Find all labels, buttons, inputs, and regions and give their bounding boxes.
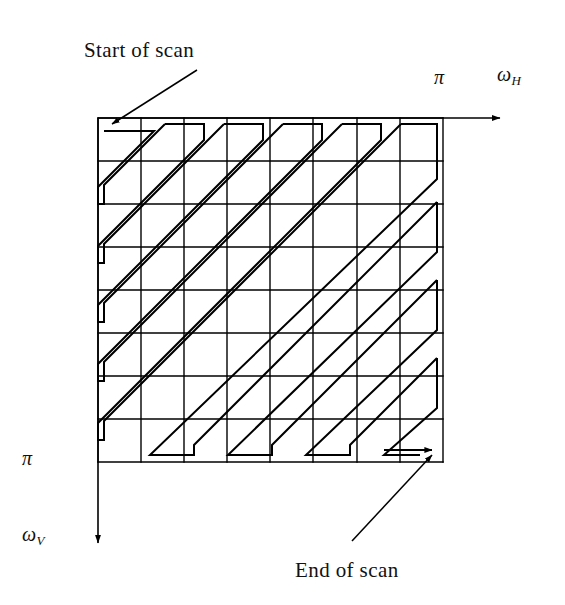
omega-h-subscript: H <box>512 73 522 88</box>
scan-segment <box>98 124 342 381</box>
start-of-scan-leader-arrow <box>112 70 197 124</box>
omega-v-symbol: ω <box>22 523 37 545</box>
scan-segment <box>98 124 401 440</box>
omega-h-symbol: ω <box>497 63 512 85</box>
scan-segment <box>306 280 437 455</box>
axes <box>98 118 500 543</box>
scan-segment <box>228 202 437 455</box>
end-of-scan-label: End of scan <box>295 558 399 583</box>
omega-v-subscript: V <box>37 533 45 548</box>
figure-canvas: Start of scan End of scan π π ωH ωV <box>0 0 565 605</box>
axis-label-omega-h: ωH <box>497 63 521 89</box>
scan-pattern-figure <box>0 0 565 605</box>
end-of-scan-leader-arrow <box>352 455 432 541</box>
frequency-plane-grid <box>98 118 443 462</box>
pi-tick-label-horizontal: π <box>434 66 444 89</box>
pi-tick-label-vertical: π <box>22 447 32 470</box>
axis-label-omega-v: ωV <box>22 523 45 549</box>
start-of-scan-label: Start of scan <box>84 38 194 63</box>
